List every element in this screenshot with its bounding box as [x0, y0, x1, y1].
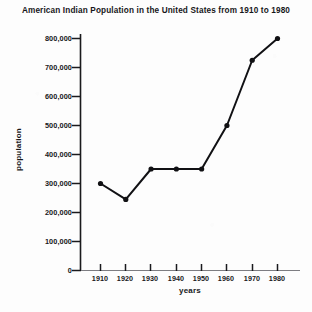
data-point	[250, 58, 255, 63]
plot-area	[0, 0, 312, 312]
data-point	[148, 166, 153, 171]
y-axis-ticks	[72, 39, 81, 271]
data-point	[199, 166, 204, 171]
data-point	[174, 166, 179, 171]
data-point-markers	[98, 36, 280, 202]
data-point	[224, 123, 229, 128]
data-line-series	[101, 39, 278, 200]
data-point	[123, 197, 128, 202]
chart-page: American Indian Population in the United…	[0, 0, 312, 312]
data-point	[98, 181, 103, 186]
data-point	[275, 36, 280, 41]
